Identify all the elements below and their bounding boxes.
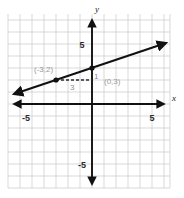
x-tick-minus5: -5 [22, 113, 30, 123]
point-0-3 [89, 65, 94, 70]
y-tick-minus5: -5 [78, 160, 86, 170]
slope-rise-label: 1 [94, 72, 99, 81]
x-tick-5: 5 [149, 113, 154, 123]
graph-canvas: x y -5 5 5 -5 (-3,2) (0,3) 3 1 [0, 0, 184, 198]
point-label-0-3: (0,3) [104, 77, 121, 86]
point-label-minus3-2: (-3,2) [34, 65, 53, 74]
x-axis-letter: x [171, 93, 176, 103]
point-minus3-2 [53, 77, 58, 82]
slope-run-label: 3 [70, 83, 75, 92]
coordinate-plane-figure: x y -5 5 5 -5 (-3,2) (0,3) 3 1 [0, 0, 184, 198]
y-tick-5: 5 [79, 40, 84, 50]
y-axis-letter: y [94, 4, 99, 14]
